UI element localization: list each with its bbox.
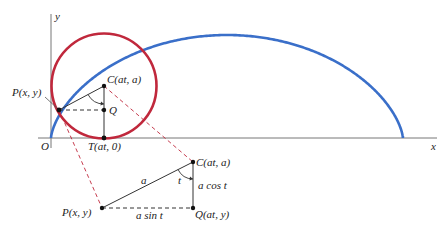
lower-q-label: Q(at, y) [195, 208, 230, 221]
lower-point-c [191, 160, 195, 164]
upper-q-label: Q [109, 104, 117, 116]
lower-p-label: P(x, y) [61, 206, 92, 219]
lower-point-p [100, 206, 104, 210]
x-axis-label: x [430, 140, 436, 152]
lower-vert-label: a cos t [198, 179, 228, 191]
origin-label: O [41, 140, 49, 152]
cycloid-diagram: y x O P(x, y) C(at, a) Q T(at, 0) C(at, … [0, 0, 445, 230]
lower-angle-label: t [178, 174, 182, 186]
lower-horiz-label: a sin t [136, 209, 164, 221]
upper-t-label: T(at, 0) [88, 140, 121, 153]
lower-c-label: C(at, a) [196, 156, 231, 169]
lower-hyp-label: a [141, 174, 147, 186]
lower-angle-arrowhead [190, 177, 194, 181]
upper-p-label: P(x, y) [11, 86, 42, 99]
connector-p [59, 110, 102, 208]
upper-point-p [57, 108, 62, 113]
upper-point-q [102, 108, 106, 112]
upper-point-c [102, 84, 106, 88]
upper-angle-arrowhead [101, 102, 105, 106]
upper-c-label: C(at, a) [107, 73, 142, 86]
y-axis-label: y [54, 10, 60, 22]
